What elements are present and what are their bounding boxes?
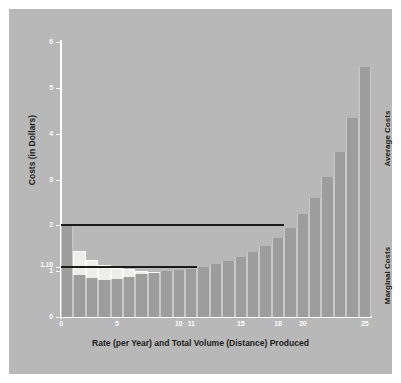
y-tick-mark <box>56 317 61 318</box>
bar-group <box>148 42 160 317</box>
bar-marginal-cost <box>197 267 209 317</box>
bar-marginal-cost <box>259 246 271 317</box>
series-label-marginal-costs: Marginal Costs <box>383 226 392 326</box>
bar-group <box>309 42 321 317</box>
bar-marginal-cost <box>235 257 247 317</box>
bar-marginal-cost <box>359 67 371 317</box>
plot-area <box>61 42 371 317</box>
bar-marginal-cost <box>297 214 309 317</box>
y-tick-label: 3 <box>35 176 53 183</box>
bar-marginal-cost <box>284 228 296 317</box>
bar-marginal-cost <box>73 275 85 317</box>
bar-group <box>173 42 185 317</box>
bar-group <box>284 42 296 317</box>
bar-group <box>160 42 172 317</box>
bar-group <box>86 42 98 317</box>
bar-marginal-cost <box>173 270 185 317</box>
y-tick-label-extra: 1.10 <box>27 261 53 268</box>
y-tick-label: 1 <box>35 267 53 274</box>
bar-marginal-cost <box>98 280 110 317</box>
chart-panel: Costs (in Dollars) 01234561.10 051011151… <box>9 9 392 374</box>
bar-marginal-cost <box>309 198 321 317</box>
x-tick-label: 20 <box>293 320 313 327</box>
x-axis-title: Rate (per Year) and Total Volume (Distan… <box>0 338 401 348</box>
bar-marginal-cost <box>123 277 135 317</box>
bar-group <box>73 42 85 317</box>
bar-group <box>185 42 197 317</box>
bar-group <box>297 42 309 317</box>
x-tick-label: 5 <box>107 320 127 327</box>
bar-group <box>334 42 346 317</box>
series-label-average-costs: Average Costs <box>383 89 392 189</box>
y-tick-label: 4 <box>35 130 53 137</box>
bar-group <box>222 42 234 317</box>
bar-group <box>359 42 371 317</box>
bar-group <box>247 42 259 317</box>
bar-marginal-cost <box>61 225 73 317</box>
y-tick-label: 6 <box>35 38 53 45</box>
bar-group <box>272 42 284 317</box>
bar-marginal-cost <box>135 274 147 317</box>
bar-group <box>61 42 73 317</box>
bar-group <box>135 42 147 317</box>
bar-marginal-cost <box>247 252 259 317</box>
bar-marginal-cost <box>346 118 358 317</box>
bar-marginal-cost <box>222 261 234 317</box>
x-tick-label: 18 <box>268 320 288 327</box>
bar-group <box>259 42 271 317</box>
bar-marginal-cost <box>321 177 333 317</box>
y-tick-label: 2 <box>35 221 53 228</box>
bar-marginal-cost <box>160 271 172 317</box>
bar-group <box>210 42 222 317</box>
bar-marginal-cost <box>86 278 98 317</box>
bar-group <box>98 42 110 317</box>
x-tick-label: 25 <box>355 320 375 327</box>
y-axis-title: Costs (in Dollars) <box>27 95 37 205</box>
bar-marginal-cost <box>272 238 284 317</box>
x-tick-label: 11 <box>181 320 201 327</box>
y-tick-label: 5 <box>35 84 53 91</box>
bar-group <box>321 42 333 317</box>
bar-group <box>235 42 247 317</box>
figure-container: Costs (in Dollars) 01234561.10 051011151… <box>0 0 401 383</box>
reference-line <box>61 266 197 268</box>
reference-line <box>61 224 284 226</box>
y-tick-label: 0 <box>35 313 53 320</box>
bar-group <box>197 42 209 317</box>
x-tick-label: 15 <box>231 320 251 327</box>
x-tick-label: 0 <box>51 320 71 327</box>
bar-marginal-cost <box>111 279 123 318</box>
bar-group <box>346 42 358 317</box>
bar-group <box>123 42 135 317</box>
bar-marginal-cost <box>148 273 160 317</box>
bar-marginal-cost <box>210 264 222 317</box>
bar-group <box>111 42 123 317</box>
bar-marginal-cost <box>185 269 197 317</box>
bar-marginal-cost <box>334 152 346 317</box>
